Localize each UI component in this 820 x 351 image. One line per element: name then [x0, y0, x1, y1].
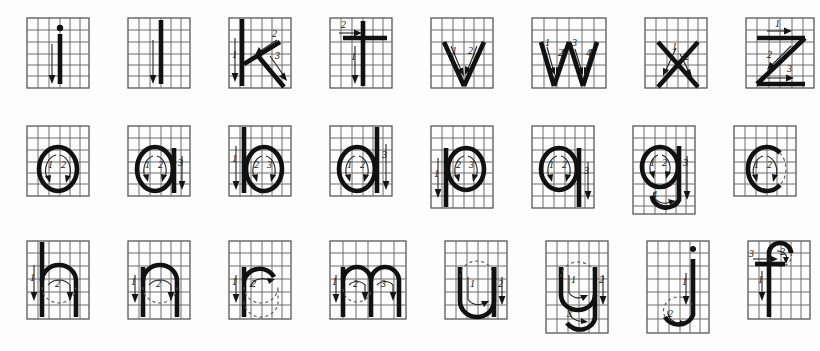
stroke-number: 2 [456, 159, 461, 170]
letter-cell-t[interactable]: 1 2 [329, 14, 397, 92]
stroke-number: 2 [353, 278, 358, 289]
arrow-b-1: 1 [232, 146, 239, 190]
letter-cell-u[interactable]: 1 2 [444, 237, 512, 332]
stroke-number: 3 [583, 165, 589, 176]
arrow-g-1: 1 [649, 155, 658, 179]
stroke-number: 3 [177, 157, 183, 168]
stroke-number: 1 [549, 159, 554, 170]
arrow-x-2: 2 [680, 51, 692, 77]
stroke-number: 2 [662, 157, 667, 168]
arrow-o-1: 1 [45, 155, 56, 183]
stroke-number: 2 [61, 159, 66, 170]
stroke-number: 2 [272, 28, 277, 39]
stroke-g [642, 146, 679, 208]
stroke-number: 3 [566, 308, 572, 319]
arrow-b-3: 3 [266, 156, 276, 182]
stroke-number: 4 [586, 47, 591, 58]
stroke-number: 4 [652, 189, 657, 200]
stroke-number: 1 [48, 159, 53, 170]
stroke-number: 1 [775, 18, 780, 29]
letter-cell-i[interactable] [26, 14, 94, 92]
grid-r [229, 241, 291, 319]
arrow-j-1: 1 [682, 273, 689, 305]
stroke-number: 3 [381, 149, 387, 160]
stroke-number: 3 [571, 37, 577, 48]
letter-cell-k[interactable]: 1 2 3 [228, 14, 296, 92]
stroke-number: 1 [232, 276, 237, 287]
letter-cell-m[interactable]: 1 2 3 [329, 237, 411, 332]
letter-cell-c[interactable]: 1 2 [733, 122, 801, 212]
arrow-b-2: 2 [252, 156, 262, 182]
stroke-number: 1 [672, 41, 677, 52]
stroke-number: 2 [341, 19, 346, 30]
arrow-m-2: 2 [349, 278, 368, 301]
letter-cell-d[interactable]: 1 2 3 [329, 122, 397, 212]
stroke-number: 2 [251, 278, 256, 289]
arrow-m-3: 3 [377, 278, 396, 301]
stroke-number: 2 [55, 278, 60, 289]
letter-cell-x[interactable]: 1 2 [644, 14, 712, 92]
stroke-number: 1 [754, 159, 759, 170]
stroke-number: 1 [30, 272, 35, 283]
stroke-number: 1 [758, 274, 763, 285]
stroke-number: 3 [266, 159, 272, 170]
letter-cell-n[interactable]: 1 2 [127, 237, 195, 332]
stroke-a [137, 147, 174, 193]
stroke-number: 1 [131, 276, 136, 287]
arrow-f-2: 2 [777, 246, 789, 264]
stroke-number: 1 [571, 274, 576, 285]
letter-cell-b[interactable]: 1 2 3 [228, 122, 296, 212]
stroke-number: 2 [767, 49, 772, 60]
letter-cell-h[interactable]: 1 2 [26, 237, 94, 332]
stroke-number: 1 [145, 159, 150, 170]
letter-cell-j[interactable]: 1 2 [646, 237, 714, 342]
arrow-t-2: 2 [339, 19, 362, 36]
arrow-a-1: 1 [143, 156, 153, 182]
arrow-q-3: 3 [583, 162, 591, 200]
letter-cell-f[interactable]: 1 2 3 [747, 237, 815, 332]
arrow-i-1 [49, 44, 56, 84]
stroke-z [757, 38, 805, 84]
stroke-number: 1 [650, 157, 655, 168]
arrow-l-1 [150, 40, 157, 84]
arrow-p-3: 3 [468, 156, 478, 182]
arrow-g-2: 2 [662, 155, 671, 179]
stroke-number: 2 [254, 159, 259, 170]
stroke-number: 2 [684, 51, 689, 62]
arrow-a-2: 2 [157, 156, 167, 182]
stroke-number: 2 [668, 308, 673, 319]
stroke-q [541, 148, 579, 207]
stroke-number: 1 [434, 168, 439, 179]
letter-row-1: 1 2 3 [0, 14, 820, 114]
letter-cell-a[interactable]: 1 2 3 [127, 122, 195, 212]
stroke-number: 2 [360, 159, 365, 170]
stroke-number: 2 [498, 278, 503, 289]
letter-cell-v[interactable]: 1 2 [430, 14, 498, 92]
stroke-number: 1 [545, 37, 550, 48]
grid-o [27, 126, 89, 196]
letter-cell-l[interactable] [127, 14, 195, 92]
letter-cell-w[interactable]: 1 2 3 4 [531, 14, 611, 92]
arrow-u-2: 2 [498, 277, 505, 305]
letter-cell-g[interactable]: 1 2 3 4 [632, 122, 700, 222]
stroke-number: 2 [158, 159, 163, 170]
grid-c [734, 126, 796, 196]
stroke-number: 1 [452, 45, 457, 56]
stroke-number: 2 [558, 47, 563, 58]
grid-x [645, 18, 707, 88]
letter-cell-z[interactable]: 1 2 3 [745, 14, 819, 92]
letter-cell-r[interactable]: 1 2 [228, 237, 296, 332]
stroke-number: 2 [780, 246, 785, 257]
stroke-number: 1 [347, 159, 352, 170]
arrow-h-1: 1 [30, 265, 37, 301]
arrow-f-3: 3 [748, 248, 778, 262]
letter-cell-p[interactable]: 1 2 3 [430, 122, 498, 217]
letter-cell-o[interactable]: 1 2 [26, 122, 94, 212]
stroke-order-chart: 1 2 3 [0, 0, 820, 351]
stroke-number: 1 [682, 276, 687, 287]
letter-cell-q[interactable]: 1 2 3 [531, 122, 599, 217]
letter-cell-y[interactable]: 1 2 3 [545, 237, 613, 342]
stroke-d [339, 127, 377, 193]
arrow-d-1: 1 [345, 156, 355, 182]
letter-row-3: 1 2 [0, 237, 820, 347]
